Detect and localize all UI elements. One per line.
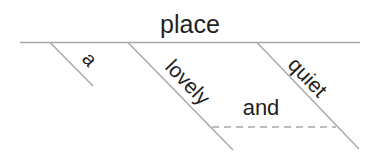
conjunction-word: and (243, 97, 280, 119)
sentence-diagram: place a lovely quiet and (0, 0, 375, 160)
base-word: place (160, 12, 220, 37)
